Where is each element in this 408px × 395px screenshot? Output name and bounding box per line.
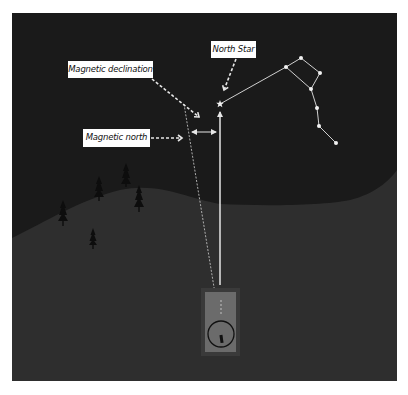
north-star-label: North Star <box>211 41 256 58</box>
star-dot-icon <box>315 106 319 110</box>
star-dot-icon <box>299 56 303 60</box>
star-dot-icon <box>317 124 321 128</box>
star-dot-icon <box>309 87 313 91</box>
star-dot-icon <box>318 71 322 75</box>
diagram: North Star Magnetic declination Magnetic… <box>0 0 408 395</box>
star-dot-icon <box>284 65 288 69</box>
star-dot-icon <box>334 141 338 145</box>
compass-icon <box>201 288 240 356</box>
magnetic-declination-label: Magnetic declination <box>68 61 153 78</box>
illustration <box>0 0 408 395</box>
magnetic-north-label: Magnetic north <box>83 129 150 147</box>
